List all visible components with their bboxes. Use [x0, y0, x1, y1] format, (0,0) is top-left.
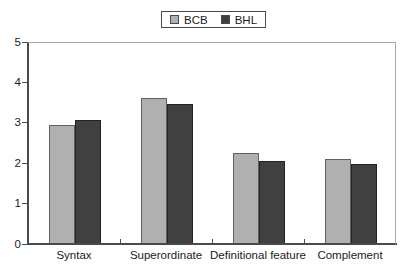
- x-axis-line: [27, 243, 397, 245]
- y-tick-mark: [22, 163, 27, 164]
- y-tick-mark: [22, 82, 27, 83]
- chart-legend: BCB BHL: [161, 11, 266, 28]
- y-tick-label: 1: [0, 197, 21, 210]
- bar-bcb-definitional-feature: [233, 153, 259, 243]
- legend-label-bhl: BHL: [235, 14, 257, 26]
- legend-item-bcb: BCB: [170, 14, 208, 26]
- legend-label-bcb: BCB: [184, 14, 208, 26]
- y-tick-mark: [22, 42, 27, 43]
- x-category-label: Definitional feature: [210, 249, 306, 261]
- y-tick-mark: [22, 203, 27, 204]
- bar-bhl-superordinate: [167, 104, 193, 243]
- bar-bcb-complement: [325, 159, 351, 243]
- bcb-series-swatch-icon: [170, 15, 179, 24]
- plot-top-border: [28, 42, 396, 43]
- x-category-label: Superordinate: [130, 249, 202, 261]
- bar-bhl-definitional-feature: [259, 161, 285, 243]
- y-tick-label: 5: [0, 36, 21, 49]
- y-tick-label: 2: [0, 157, 21, 170]
- bar-bcb-superordinate: [141, 98, 167, 243]
- y-tick-mark: [22, 244, 27, 245]
- x-tick-mark: [304, 239, 305, 243]
- x-tick-mark: [120, 239, 121, 243]
- bar-chart-figure: BCB BHL 012345SyntaxSuperordinateDefinit…: [0, 0, 403, 277]
- y-tick-label: 3: [0, 116, 21, 129]
- bar-bhl-complement: [351, 164, 377, 243]
- x-tick-mark: [212, 239, 213, 243]
- bhl-series-swatch-icon: [221, 15, 230, 24]
- bar-bhl-syntax: [75, 120, 101, 243]
- bar-bcb-syntax: [49, 125, 75, 243]
- y-tick-label: 0: [0, 238, 21, 251]
- y-tick-mark: [22, 122, 27, 123]
- plot-right-border: [395, 42, 396, 244]
- legend-item-bhl: BHL: [221, 14, 257, 26]
- x-category-label: Syntax: [56, 249, 91, 261]
- y-tick-label: 4: [0, 76, 21, 89]
- x-category-label: Complement: [317, 249, 382, 261]
- y-axis-line: [27, 42, 29, 245]
